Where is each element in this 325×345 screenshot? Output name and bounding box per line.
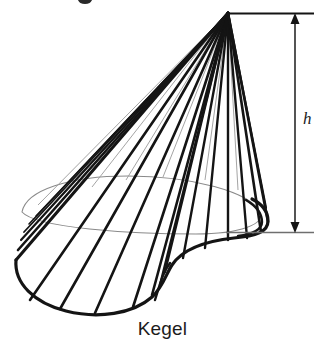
cropped-glyph-artifact xyxy=(79,0,92,4)
height-dimension-arrow xyxy=(291,13,300,233)
height-label: h xyxy=(303,110,312,128)
figure-caption: Kegel xyxy=(0,318,325,340)
figure-container: h Kegel xyxy=(0,0,325,345)
cone-figure-svg xyxy=(0,0,325,345)
